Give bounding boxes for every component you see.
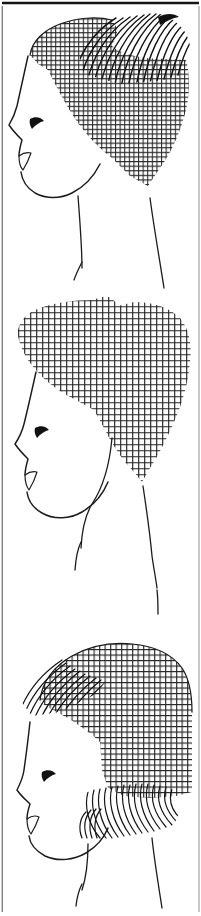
figure-middle	[15, 296, 191, 588]
neck-collar-notch-1	[74, 262, 82, 280]
illustration-canvas	[0, 0, 201, 916]
hair-mass-crosshatch-2	[18, 296, 191, 482]
neck-back-line-3	[152, 838, 162, 908]
figure-bottom	[17, 644, 192, 909]
face-profile-1	[9, 56, 28, 156]
figure-top	[9, 14, 190, 288]
neck-collar-notch-3	[76, 884, 82, 906]
neck-front-line-2	[81, 438, 112, 548]
hair-mass-crosshatch-3	[40, 644, 192, 799]
face-profile-3	[17, 722, 30, 819]
hair-mass-crosshatch-1	[30, 18, 189, 186]
neck-back-line-2-continuation	[157, 590, 158, 614]
chin-jaw-2	[27, 482, 108, 518]
neck-collar-notch-2	[75, 542, 81, 570]
lips-3	[27, 816, 39, 834]
illustration-plate: Three Hairstyle Profiles	[0, 0, 201, 916]
neck-front-line-1	[78, 196, 82, 268]
neck-back-line-1	[150, 198, 164, 288]
chin-jaw-1	[21, 164, 100, 198]
eye-2	[35, 426, 49, 438]
eye-1	[30, 117, 44, 129]
lips-1	[19, 153, 31, 170]
eye-3	[42, 770, 56, 782]
lips-2	[25, 472, 37, 490]
face-profile-2	[15, 372, 36, 475]
neck-front-line-3	[82, 844, 88, 890]
neck-back-line-2	[143, 486, 157, 588]
